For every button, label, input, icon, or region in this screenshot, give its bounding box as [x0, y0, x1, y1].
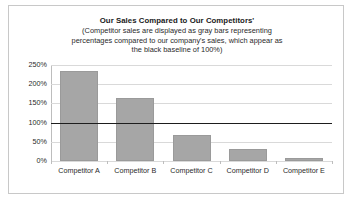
- bar: [60, 71, 98, 161]
- baseline-100-percent: [51, 123, 332, 124]
- chart-subtitle-line-3: the black baseline of 100%): [9, 45, 345, 55]
- chart-title: Our Sales Compared to Our Competitors': [9, 15, 345, 26]
- x-axis-tick-labels: Competitor ACompetitor BCompetitor CComp…: [51, 166, 332, 180]
- y-axis-tick-label: 150%: [13, 99, 47, 107]
- bar: [229, 149, 267, 161]
- y-axis-line: [51, 65, 52, 161]
- x-axis-tick-label: Competitor C: [163, 166, 219, 176]
- chart-subtitle-line-1: (Competitor sales are displayed as gray …: [9, 26, 345, 36]
- y-axis-tick-label: 250%: [13, 61, 47, 69]
- gridline: [51, 65, 332, 66]
- y-axis-tick-label: 0%: [13, 157, 47, 165]
- x-axis-tick-mark: [163, 161, 164, 164]
- x-axis-tick-label: Competitor B: [107, 166, 163, 176]
- y-axis-tick-label: 100%: [13, 119, 47, 127]
- y-axis-tick-label: 50%: [13, 138, 47, 146]
- bar: [173, 135, 211, 161]
- x-axis-tick-mark: [51, 161, 52, 164]
- x-axis-tick-mark: [332, 161, 333, 164]
- x-axis-tick-mark: [276, 161, 277, 164]
- bar: [116, 98, 154, 161]
- x-axis-tick-mark: [107, 161, 108, 164]
- y-axis-tick-label: 200%: [13, 80, 47, 88]
- chart-subtitle-line-2: percentages compared to our company's sa…: [9, 36, 345, 46]
- x-axis-tick-label: Competitor D: [220, 166, 276, 176]
- plot-area: [51, 65, 332, 161]
- chart-title-block: Our Sales Compared to Our Competitors' (…: [9, 15, 345, 55]
- chart-container: Our Sales Compared to Our Competitors' (…: [8, 5, 344, 194]
- x-axis-tick-label: Competitor E: [276, 166, 332, 176]
- y-axis-tick-labels: 0%50%100%150%200%250%: [9, 65, 47, 161]
- gridline: [51, 161, 332, 162]
- bar: [285, 158, 323, 161]
- x-axis-tick-mark: [220, 161, 221, 164]
- x-axis-tick-label: Competitor A: [51, 166, 107, 176]
